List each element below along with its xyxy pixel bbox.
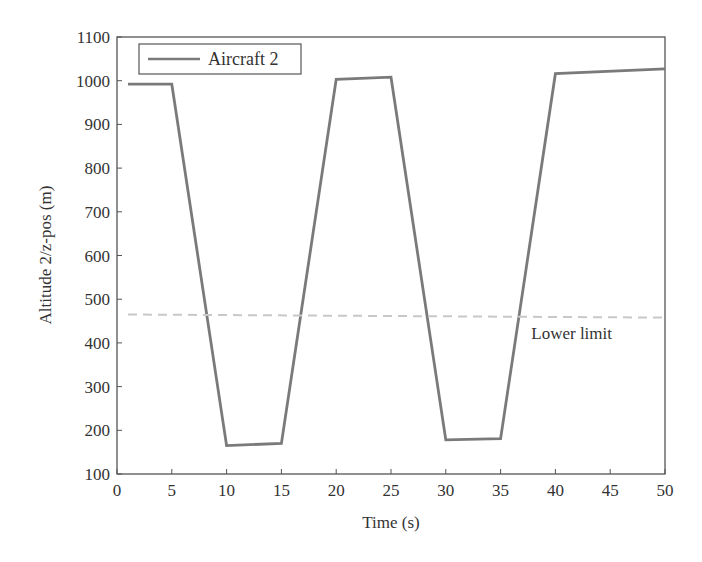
y-tick-label: 200	[85, 421, 111, 440]
altitude-chart: 05101520253035404550 1002003004005006007…	[0, 0, 702, 562]
x-tick-label: 10	[218, 481, 235, 500]
legend: Aircraft 2	[139, 44, 301, 74]
x-tick-label: 50	[657, 481, 674, 500]
y-tick-label: 800	[85, 159, 111, 178]
y-tick-label: 1100	[77, 28, 110, 47]
x-tick-label: 5	[168, 481, 177, 500]
x-tick-label: 40	[547, 481, 564, 500]
x-tick-label: 25	[383, 481, 400, 500]
y-axis-title: Altitude 2/z-pos (m)	[36, 186, 55, 325]
legend-label-aircraft-2: Aircraft 2	[208, 49, 278, 69]
y-tick-label: 100	[85, 465, 111, 484]
y-tick-label: 900	[85, 115, 111, 134]
x-tick-label: 45	[602, 481, 619, 500]
series-aircraft-2	[128, 69, 665, 446]
y-tick-label: 600	[85, 247, 111, 266]
x-tick-label: 35	[492, 481, 509, 500]
y-axis-ticks: 10020030040050060070080090010001100	[76, 28, 122, 484]
y-tick-label: 400	[85, 334, 111, 353]
series-lower-limit	[128, 315, 665, 318]
plot-frame	[117, 37, 665, 474]
series-layer	[128, 69, 665, 446]
x-tick-label: 30	[437, 481, 454, 500]
x-tick-label: 0	[113, 481, 122, 500]
y-tick-label: 300	[85, 378, 111, 397]
y-tick-label: 700	[85, 203, 111, 222]
plot-border	[117, 37, 665, 474]
x-axis-title: Time (s)	[362, 513, 419, 532]
x-tick-label: 20	[328, 481, 345, 500]
y-tick-label: 1000	[76, 72, 110, 91]
y-tick-label: 500	[85, 290, 111, 309]
x-tick-label: 15	[273, 481, 290, 500]
lower-limit-annotation: Lower limit	[531, 324, 612, 343]
